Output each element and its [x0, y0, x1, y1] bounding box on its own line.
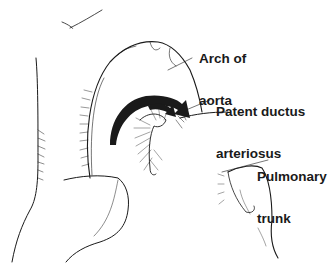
ascending-aorta-inner	[140, 114, 166, 175]
large-flow-arrow-icon	[110, 95, 190, 145]
pulmonary-hatching	[218, 174, 224, 204]
flow-arrows	[110, 95, 190, 145]
pulmonary-trunk-inner	[228, 172, 255, 213]
tissue-outline-top	[62, 10, 102, 29]
left-body-outline	[12, 58, 38, 262]
arch-hatching	[80, 90, 92, 166]
label-pulmonary-trunk: Pulmonary trunk	[257, 142, 327, 240]
label-pulmonary-line2: trunk	[257, 212, 327, 226]
aortic-arch-inner-line	[91, 78, 104, 175]
label-ductus-line1: Patent ductus	[216, 105, 305, 119]
label-pulmonary-line1: Pulmonary	[257, 170, 327, 184]
left-hatching	[38, 130, 45, 180]
lower-heart-inner	[94, 180, 118, 236]
label-arch-line1: Arch of	[199, 52, 246, 66]
lower-heart-outline	[64, 176, 129, 262]
